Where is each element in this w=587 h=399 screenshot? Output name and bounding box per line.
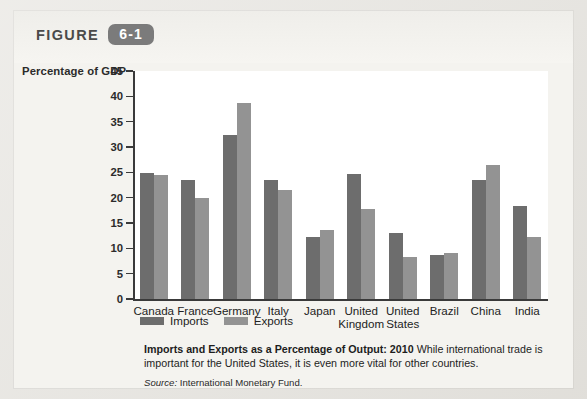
bar-group (347, 71, 375, 299)
legend-entry-imports: Imports (140, 314, 209, 327)
y-axis-tick (126, 298, 133, 299)
bar-exports (403, 257, 417, 299)
y-axis-tick (126, 146, 133, 147)
bar-imports (306, 237, 320, 299)
bar-imports (472, 180, 486, 299)
x-axis-label: India (515, 305, 540, 318)
y-axis-tick (126, 121, 133, 122)
y-axis-tick-label: 10 (110, 242, 123, 254)
bar-imports (513, 206, 527, 299)
bar-exports (361, 209, 375, 299)
legend-swatch-exports (224, 317, 248, 325)
y-axis-tick-label: 45 (110, 65, 123, 77)
y-axis-tick (126, 172, 133, 173)
caption-source: Source: International Monetary Fund. (144, 377, 559, 388)
x-axis-label: China (471, 305, 501, 318)
bar-exports (527, 237, 541, 299)
bar-imports (430, 255, 444, 299)
bar-exports (237, 103, 251, 299)
bar-group (472, 71, 500, 299)
y-axis-tick-label: 30 (110, 141, 123, 153)
x-axis-label: UnitedKingdom (338, 305, 384, 330)
y-axis-line (133, 71, 135, 299)
y-axis-tick-label: 15 (110, 217, 123, 229)
bar-exports (320, 230, 334, 299)
y-axis-tick (126, 273, 133, 274)
legend-entry-exports: Exports (224, 314, 293, 327)
bar-group (223, 71, 251, 299)
x-axis-label: UnitedStates (386, 305, 420, 330)
bar-group (513, 71, 541, 299)
bar-exports (444, 253, 458, 299)
x-axis-label: Brazil (430, 305, 459, 318)
source-label: Source: (144, 377, 177, 388)
y-axis-tick-label: 40 (110, 90, 123, 102)
bar-group (306, 71, 334, 299)
legend-label: Exports (254, 314, 293, 327)
chart-legend: ImportsExports (140, 314, 293, 327)
bar-imports (181, 180, 195, 299)
bar-imports (389, 233, 403, 299)
bar-group (181, 71, 209, 299)
y-axis-tick-label: 35 (110, 116, 123, 128)
plot-wrapper: 051015202530354045 CanadaFranceGermanyIt… (133, 71, 548, 299)
x-axis-line (133, 299, 548, 301)
y-axis-tick-label: 5 (117, 268, 123, 280)
bar-exports (486, 165, 500, 299)
bar-group (264, 71, 292, 299)
y-axis-tick-label: 25 (110, 166, 123, 178)
y-axis-tick-label: 20 (110, 192, 123, 204)
figure-panel: FIGURE 6-1 Percentage of GDP 05101520253… (14, 11, 573, 388)
bar-imports (264, 180, 278, 299)
scanned-page-background: FIGURE 6-1 Percentage of GDP 05101520253… (0, 0, 587, 399)
x-axis-label: Japan (304, 305, 336, 318)
legend-label: Imports (170, 314, 209, 327)
figure-header: FIGURE 6-1 (36, 24, 154, 45)
bar-imports (223, 135, 237, 299)
bar-exports (195, 198, 209, 299)
bar-imports (140, 173, 154, 299)
bar-group (140, 71, 168, 299)
bar-group (430, 71, 458, 299)
y-axis-tick (126, 248, 133, 249)
bar-group (389, 71, 417, 299)
bar-chart: Percentage of GDP 051015202530354045 Can… (14, 55, 573, 330)
caption-text: Imports and Exports as a Percentage of O… (144, 342, 559, 370)
legend-swatch-imports (140, 317, 164, 325)
bar-exports (278, 190, 292, 299)
figure-number-badge: 6-1 (108, 24, 154, 45)
bar-exports (154, 175, 168, 299)
y-axis-tick-label: 0 (117, 293, 123, 305)
figure-label: FIGURE (36, 27, 99, 43)
y-axis-tick (126, 70, 133, 71)
figure-caption: Imports and Exports as a Percentage of O… (144, 342, 559, 388)
bar-imports (347, 174, 361, 299)
caption-bold-lead: Imports and Exports as a Percentage of O… (144, 343, 414, 355)
y-axis-tick (126, 197, 133, 198)
y-axis-tick (126, 222, 133, 223)
source-value: International Monetary Fund. (180, 377, 303, 388)
y-axis-tick (126, 96, 133, 97)
